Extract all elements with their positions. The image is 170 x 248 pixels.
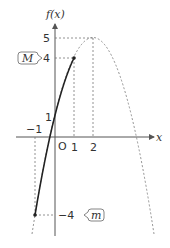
x-tick-1: 1 xyxy=(71,141,78,154)
origin-label: O xyxy=(58,140,67,153)
x-tick-neg1: −1 xyxy=(26,123,42,136)
y-tick-5: 5 xyxy=(43,32,50,45)
x-tick-2: 2 xyxy=(90,141,97,154)
y-tick-neg4: −4 xyxy=(58,209,74,222)
y-tick-1: 1 xyxy=(45,111,52,124)
max-callout-label: M xyxy=(21,52,34,65)
min-callout-label: m xyxy=(91,209,101,222)
max-callout: M xyxy=(18,52,42,65)
y-axis-label: f(x) xyxy=(45,8,65,21)
endpoint-max xyxy=(72,56,76,60)
function-graph: f(x) x O 5 4 1 −4 −1 1 2 M m xyxy=(0,0,170,248)
endpoint-min xyxy=(33,213,37,217)
x-axis-label: x xyxy=(156,131,163,144)
min-callout: m xyxy=(84,209,104,222)
y-tick-4: 4 xyxy=(43,52,50,65)
